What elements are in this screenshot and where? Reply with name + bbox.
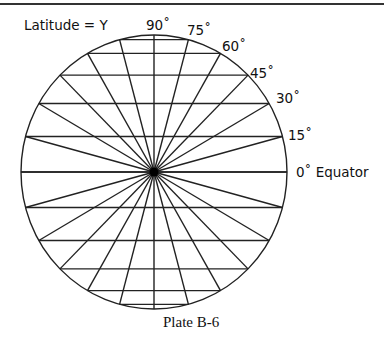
plate-caption: Plate B-6 bbox=[163, 314, 220, 330]
spoke-line bbox=[154, 172, 269, 241]
latitude-circle-diagram: Latitude = Y 90˚ 75˚ 60˚ 45˚ 30˚ 15˚ 0˚ … bbox=[0, 0, 384, 350]
title-label: Latitude = Y bbox=[24, 17, 108, 33]
spoke-line bbox=[154, 172, 188, 304]
label-75: 75˚ bbox=[187, 22, 211, 38]
spoke-line bbox=[154, 53, 221, 172]
spoke-line bbox=[154, 137, 282, 172]
spoke-line bbox=[88, 172, 155, 291]
label-90: 90˚ bbox=[146, 17, 170, 33]
spoke-line bbox=[120, 40, 154, 172]
spoke-line bbox=[26, 137, 154, 172]
spoke-line bbox=[154, 104, 269, 173]
spoke-line bbox=[154, 172, 282, 207]
spoke-line bbox=[154, 40, 188, 172]
spoke-line bbox=[60, 172, 154, 269]
label-30: 30˚ bbox=[276, 90, 300, 106]
center-dot bbox=[150, 168, 159, 177]
spoke-line bbox=[154, 172, 248, 269]
spoke-line bbox=[39, 104, 154, 173]
spoke-line bbox=[154, 172, 221, 291]
label-45: 45˚ bbox=[250, 65, 274, 81]
spoke-line bbox=[60, 75, 154, 172]
spoke-line bbox=[88, 53, 155, 172]
spoke-line bbox=[26, 172, 154, 207]
label-15: 15˚ bbox=[288, 127, 312, 143]
label-equator: 0˚ Equator bbox=[296, 164, 369, 180]
spoke-line bbox=[154, 75, 248, 172]
spoke-line bbox=[39, 172, 154, 241]
spoke-line bbox=[120, 172, 154, 304]
label-60: 60˚ bbox=[222, 38, 246, 54]
